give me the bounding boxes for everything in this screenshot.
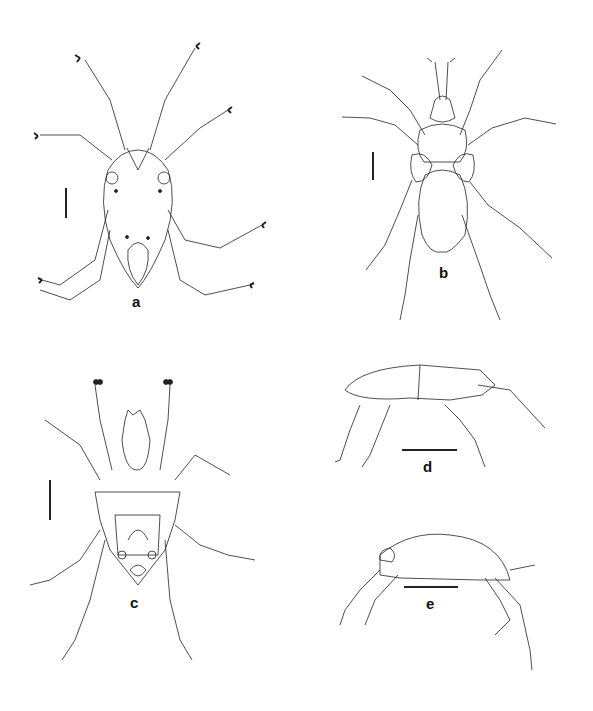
mite-dorsal-drawing-a [0,0,300,330]
panel-label-c: c [130,594,138,611]
scale-bar-d [402,449,457,451]
mite-lateral-drawing-d [300,360,593,500]
scale-bar-e [404,586,458,588]
panel-label-e: e [426,595,434,612]
panel-label-a: a [132,293,140,310]
panel-a: a [0,0,300,330]
scale-bar-b [372,152,374,180]
scale-bar-a [65,188,67,218]
panel-label-b: b [439,264,448,281]
scale-bar-c [49,480,51,520]
mite-lateral-drawing-e [300,520,593,711]
panel-c: c [0,360,300,711]
panel-b: b [300,0,593,330]
panel-d: d [300,360,593,500]
panel-e: e [300,520,593,711]
panel-label-d: d [423,458,432,475]
mite-ventral-drawing-c [0,360,300,711]
